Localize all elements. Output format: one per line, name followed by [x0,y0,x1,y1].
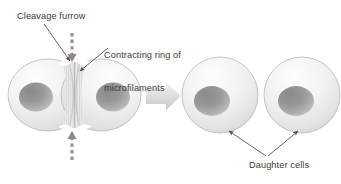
label-contracting-ring-line2: microfilaments [104,83,181,94]
cytokinesis-diagram: Cleavage furrow Contracting ring of micr… [0,0,341,184]
label-contracting-ring-of-microfilaments: Contracting ring of microfilaments [104,28,181,116]
leader-line-daughter-cell-1 [229,131,266,156]
nucleus-left-lobe [19,83,53,112]
dashed-arrow-up [67,131,76,160]
label-cleavage-furrow: Cleavage furrow [17,11,85,22]
leader-line-daughter-cell-2 [268,131,298,156]
daughter-cells-group [182,57,340,133]
leader-line-cleavage-furrow [44,24,70,61]
nucleus-daughter-1 [194,86,230,116]
dashed-arrow-down [67,33,76,62]
label-daughter-cells: Daughter cells [249,160,309,171]
nucleus-daughter-2 [278,86,314,116]
label-contracting-ring-line1: Contracting ring of [104,50,181,61]
